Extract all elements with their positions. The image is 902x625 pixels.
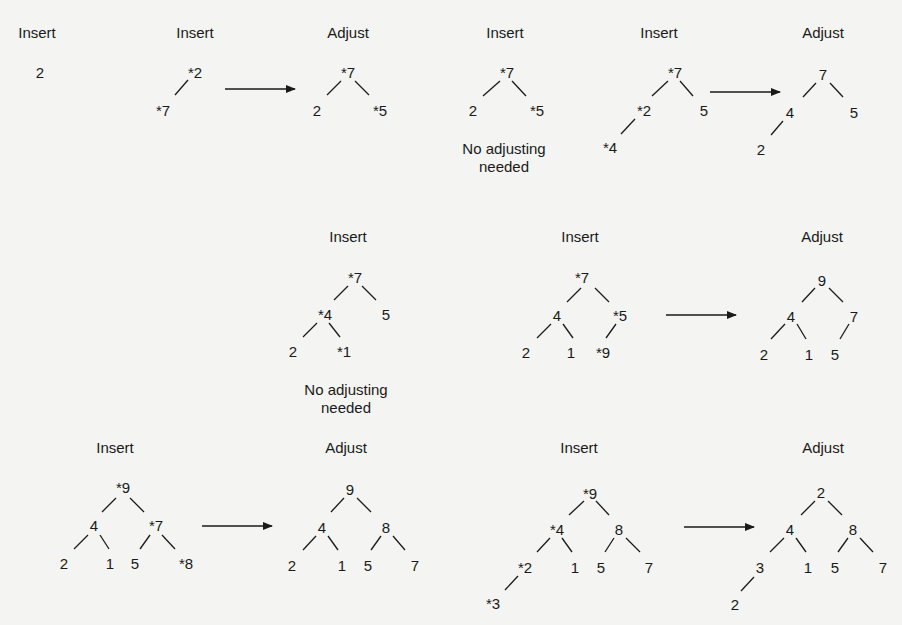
step-label: Insert [486,25,524,40]
tree-edge [371,536,381,550]
edge-layer [0,0,902,625]
tree-node: 7 [819,67,827,82]
tree-node: *5 [530,103,544,118]
tree-node: *2 [188,65,202,80]
note-line: needed [304,399,387,417]
tree-node: 8 [615,522,623,537]
tree-node: 4 [787,309,795,324]
tree-node: *7 [668,65,682,80]
tree-node: 8 [382,520,390,535]
tree-node: *7 [149,518,163,533]
tree-node: *4 [318,307,332,322]
tree-node: 2 [36,65,44,80]
tree-edge [626,538,640,552]
tree-node: 1 [571,560,579,575]
tree-edge [840,324,849,339]
tree-edge [483,81,500,96]
no-adjust-note: No adjustingneeded [304,381,387,417]
tree-node: 2 [289,344,297,359]
step-label: Adjust [327,25,369,40]
step-label: Insert [561,229,599,244]
tree-edge [303,536,316,550]
tree-edge [563,324,573,338]
tree-edge [621,119,635,134]
tree-node: 5 [597,560,605,575]
tree-edge [328,536,338,550]
tree-node: *4 [550,522,564,537]
tree-edge [327,81,341,95]
tree-edge [175,80,188,95]
tree-edge [140,535,150,549]
note-line: No adjusting [304,381,387,399]
tree-node: 7 [879,560,887,575]
tree-node: 2 [288,558,296,573]
tree-node: 9 [346,482,354,497]
tree-node: *9 [116,480,130,495]
tree-edge [828,501,842,515]
tree-node: 4 [553,308,561,323]
tree-edge [537,538,550,552]
tree-node: 1 [567,345,575,360]
tree-edge [162,535,175,549]
tree-edge [362,286,376,300]
tree-edge [355,81,369,95]
tree-edge [100,535,109,549]
tree-edge [797,324,806,339]
tree-node: *8 [179,556,193,571]
tree-node: *2 [637,103,651,118]
tree-edge [596,501,609,515]
tree-node: 9 [818,273,826,288]
tree-edge [829,288,843,302]
tree-node: *5 [613,308,627,323]
tree-node: *5 [373,103,387,118]
tree-node: *9 [596,345,610,360]
tree-node: *2 [518,560,532,575]
tree-edge [331,498,344,512]
tree-node: 2 [817,485,825,500]
tree-edge [357,498,371,512]
tree-edge [606,324,616,338]
tree-node: 4 [786,105,794,120]
tree-edge [605,538,614,552]
tree-edge [562,538,572,552]
step-label: Adjust [325,440,367,455]
tree-node: 1 [106,556,114,571]
tree-node: 5 [382,307,390,322]
note-line: No adjusting [462,140,545,158]
tree-node: *7 [341,65,355,80]
tree-edge [505,576,518,590]
tree-node: 7 [411,558,419,573]
step-label: Insert [640,25,678,40]
tree-node: 2 [469,103,477,118]
tree-edge [537,324,551,338]
tree-edge [102,498,116,512]
tree-edge [74,535,88,549]
tree-node: 3 [756,560,764,575]
tree-edge [334,286,348,300]
tree-edge [130,498,144,512]
tree-edge [802,288,815,302]
step-label: Adjust [802,440,844,455]
tree-edge [796,538,806,552]
tree-node: 1 [805,347,813,362]
tree-node: 2 [760,347,768,362]
tree-edge [329,323,340,337]
tree-node: *4 [603,140,617,155]
step-label: Adjust [802,25,844,40]
tree-node: 5 [364,558,372,573]
tree-node: 2 [60,556,68,571]
step-label: Insert [560,440,598,455]
tree-edge [567,288,581,302]
tree-node: *7 [500,65,514,80]
tree-edge [771,121,783,135]
tree-edge [741,577,754,591]
tree-edge [801,501,815,515]
tree-node: 2 [313,103,321,118]
tree-node: 7 [645,560,653,575]
tree-node: *1 [337,344,351,359]
tree-edge [393,536,405,550]
no-adjust-note: No adjustingneeded [462,140,545,176]
tree-node: *7 [575,270,589,285]
tree-node: *3 [486,596,500,611]
tree-node: 2 [757,142,765,157]
